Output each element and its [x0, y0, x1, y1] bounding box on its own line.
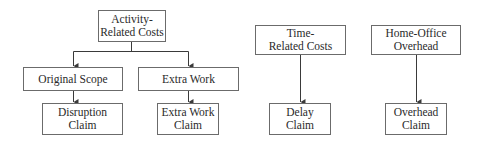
node-label-line: Activity- — [111, 13, 153, 26]
node-label-line: Claim — [286, 119, 314, 132]
node-extra-work-claim: Extra Work Claim — [157, 103, 219, 135]
node-label-line: Original Scope — [38, 73, 107, 86]
node-label-line: Claim — [68, 119, 96, 132]
node-label-line: Delay — [286, 106, 313, 119]
node-overhead-claim: Overhead Claim — [385, 103, 447, 135]
node-time-related-costs: Time- Related Costs — [255, 25, 346, 55]
node-original-scope: Original Scope — [23, 67, 123, 91]
node-label-line: Home-Office — [385, 27, 446, 40]
node-delay-claim: Delay Claim — [269, 103, 331, 135]
node-disruption-claim: Disruption Claim — [42, 103, 123, 135]
node-label-line: Related Costs — [100, 26, 164, 39]
node-home-office-overhead: Home-Office Overhead — [371, 25, 461, 55]
node-label-line: Time- — [287, 27, 315, 40]
node-extra-work: Extra Work — [138, 67, 239, 91]
node-label-line: Related Costs — [269, 40, 333, 53]
node-activity-related-costs: Activity- Related Costs — [98, 10, 166, 42]
node-label-line: Extra Work — [162, 73, 215, 86]
node-label-line: Extra Work — [162, 106, 215, 119]
node-label-line: Disruption — [58, 106, 107, 119]
node-label-line: Claim — [402, 119, 430, 132]
node-label-line: Overhead — [394, 40, 439, 53]
node-label-line: Overhead — [394, 106, 439, 119]
node-label-line: Claim — [174, 119, 202, 132]
